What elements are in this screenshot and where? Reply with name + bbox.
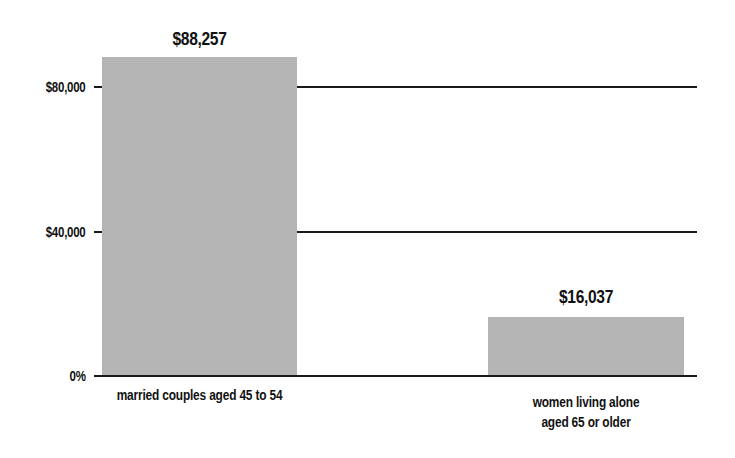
category-label-married-couples: married couples aged 45 to 54 [103, 385, 296, 405]
bar-chart: $80,000 $40,000 0% $88,257 $16,037 marri… [0, 0, 735, 458]
y-tick-label-40000: $40,000 [46, 224, 86, 240]
bar-women-living-alone [488, 317, 684, 376]
bar-married-couples [102, 57, 297, 376]
y-tick-label-80000: $80,000 [46, 79, 86, 95]
category-label-line: women living alone [488, 392, 685, 412]
x-axis-baseline [94, 375, 697, 377]
value-label-married-couples: $88,257 [120, 28, 280, 50]
category-label-line: married couples aged 45 to 54 [103, 385, 296, 405]
category-label-women-living-alone: women living alone aged 65 or older [488, 392, 685, 432]
category-label-line: aged 65 or older [488, 412, 685, 432]
y-tick-label-0: 0% [70, 368, 86, 384]
value-label-women-living-alone: $16,037 [506, 286, 667, 308]
